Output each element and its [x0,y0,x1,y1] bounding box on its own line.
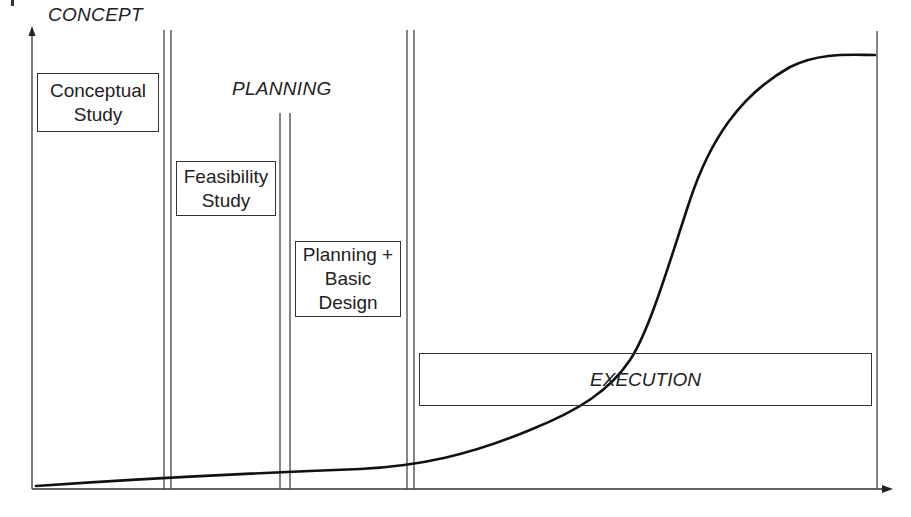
y-axis-arrow-icon [29,26,36,36]
stage-label-conceptual-study: Conceptual Study [50,79,146,127]
corner-mark [11,0,14,6]
stage-box-feasibility-study: Feasibility Study [176,161,276,216]
stage-box-execution: EXECUTION [419,353,872,406]
divider-concept-planning [164,30,171,489]
s-curve [36,55,875,486]
x-axis-arrow-icon [882,485,893,493]
stage-box-planning-basic-design: Planning + Basic Design [295,241,401,317]
stage-label-execution: EXECUTION [590,368,701,392]
divider-feasibility-planning [280,113,290,489]
stage-label-planning-basic-design: Planning + Basic Design [303,243,393,315]
stage-box-conceptual-study: Conceptual Study [37,73,159,132]
divider-planning-execution [407,30,414,489]
stage-label-feasibility-study: Feasibility Study [184,165,268,213]
phase-label-planning: PLANNING [232,78,332,100]
phase-label-concept: CONCEPT [48,4,143,26]
